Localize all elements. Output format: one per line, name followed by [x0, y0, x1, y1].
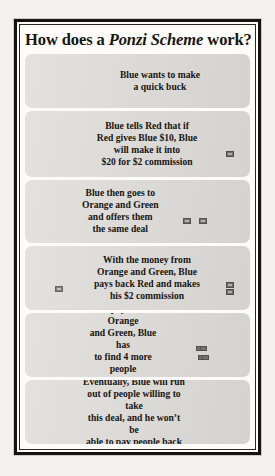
panel-1-text: Blue wants to make a quick buck [81, 69, 239, 93]
panel-3-line-3: and offers them [82, 211, 159, 223]
panel-2-line-4: $20 for $2 commission [82, 156, 212, 168]
panel-6-right-figures [187, 408, 250, 415]
panel-5-text: To pay back Orange and Green, Blue has t… [81, 313, 165, 377]
title-suffix: work? [203, 30, 251, 49]
panel-6-line-3: this deal, and he won’t be [82, 412, 186, 436]
panel-1-line-1: Blue wants to make [82, 69, 238, 81]
panel-6-text: Eventually, Blue will run out of people … [81, 380, 187, 444]
panel-4-line-1: With the money from [82, 254, 212, 266]
money-bill-icon [55, 286, 63, 292]
panel-step-6: Eventually, Blue will run out of people … [25, 380, 250, 444]
panel-6-line-1: Eventually, Blue will run [82, 380, 186, 388]
money-bill-icon [226, 282, 234, 288]
panel-5-line-2: and Green, Blue has [82, 327, 164, 351]
panel-3-line-2: Orange and Green [82, 199, 159, 211]
money-bill-icon [199, 218, 207, 224]
money-bill-icon [202, 355, 209, 360]
panel-step-4: With the money from Orange and Green, Bl… [25, 246, 250, 310]
money-bill-icon [226, 289, 234, 295]
panel-2-line-3: will make it into [82, 144, 212, 156]
panel-3-text: Blue then goes to Orange and Green and o… [81, 187, 160, 235]
panel-step-2: Blue tells Red that if Red gives Blue $1… [25, 111, 250, 176]
page-title: How does a Ponzi Scheme work? [25, 29, 250, 54]
money-bill-icon [183, 218, 191, 224]
panel-3-line-1: Blue then goes to [82, 187, 159, 199]
panel-2-text: Blue tells Red that if Red gives Blue $1… [81, 120, 213, 168]
title-emphasis: Ponzi Scheme [109, 30, 204, 49]
poster-inner-frame: How does a Ponzi Scheme work? Blue wants… [19, 24, 256, 450]
infographic-poster: How does a Ponzi Scheme work? Blue wants… [14, 19, 261, 455]
panel-5-line-3: to find 4 more people [82, 351, 164, 375]
panel-4-line-3: pays back Red and makes [82, 278, 212, 290]
panel-1-line-2: a quick buck [82, 81, 238, 93]
panel-2-line-2: Red gives Blue $10, Blue [82, 132, 212, 144]
panel-6-line-4: able to pay people back [82, 436, 186, 444]
money-bill-icon [200, 346, 207, 351]
panel-step-1: Blue wants to make a quick buck [25, 54, 250, 108]
panel-list: Blue wants to make a quick buck Blue [25, 54, 250, 444]
panel-4-line-2: Orange and Green, Blue [82, 266, 212, 278]
person-group [203, 340, 209, 349]
title-prefix: How does a [25, 30, 109, 49]
panel-5-line-4: to take this deal [82, 375, 164, 377]
panel-5-right-figures [165, 340, 250, 349]
panel-2-line-1: Blue tells Red that if [82, 120, 212, 132]
panel-step-3: Blue then goes to Orange and Green and o… [25, 180, 250, 243]
panel-5-line-1: To pay back Orange [82, 313, 164, 327]
money-bill-icon [226, 151, 234, 157]
panel-4-text: With the money from Orange and Green, Bl… [81, 254, 213, 302]
panel-4-line-4: his $2 commission [82, 290, 212, 302]
panel-6-line-2: out of people willing to take [82, 388, 186, 412]
person-crowd [216, 408, 219, 415]
panel-step-5: To pay back Orange and Green, Blue has t… [25, 313, 250, 377]
panel-3-line-4: the same deal [82, 223, 159, 235]
